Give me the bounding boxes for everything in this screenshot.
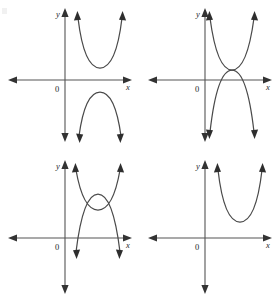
curve-downward-parabola bbox=[76, 92, 124, 143]
y-axis-label: y bbox=[195, 9, 200, 19]
x-axis-label: x bbox=[265, 240, 270, 250]
panel-bottom-right: y x 0 bbox=[140, 152, 280, 304]
panel-bottom-left: y x 0 bbox=[0, 152, 140, 304]
y-axis-top-left bbox=[61, 8, 68, 142]
panel-top-left: y x 0 bbox=[0, 0, 140, 152]
curve-downward-parabola bbox=[73, 194, 123, 259]
x-axis-top-left bbox=[8, 76, 132, 83]
origin-label: 0 bbox=[195, 242, 199, 252]
x-axis-top-right bbox=[148, 76, 272, 83]
origin-label: 0 bbox=[55, 242, 59, 252]
y-axis-bottom-left bbox=[61, 160, 68, 294]
y-axis-bottom-right bbox=[201, 160, 208, 294]
x-axis-label: x bbox=[265, 82, 270, 92]
x-axis-bottom-right bbox=[148, 234, 272, 241]
corner-artifact-mark bbox=[2, 8, 7, 14]
y-axis-label: y bbox=[55, 161, 60, 171]
parabola-figure-grid: y x 0 bbox=[0, 0, 280, 304]
panel-top-right: y x 0 bbox=[140, 0, 280, 152]
y-axis-label: y bbox=[195, 161, 200, 171]
origin-label: 0 bbox=[195, 84, 199, 94]
x-axis-label: x bbox=[125, 82, 130, 92]
y-axis-label: y bbox=[55, 9, 60, 19]
curve-upward-parabola bbox=[214, 163, 266, 222]
origin-label: 0 bbox=[55, 84, 59, 94]
curve-upward-parabola bbox=[206, 11, 258, 70]
x-axis-bottom-left bbox=[8, 234, 132, 241]
curve-upward-parabola bbox=[74, 11, 126, 68]
curve-upward-parabola bbox=[72, 163, 124, 210]
x-axis-label: x bbox=[125, 240, 130, 250]
y-axis-top-right bbox=[201, 8, 208, 142]
